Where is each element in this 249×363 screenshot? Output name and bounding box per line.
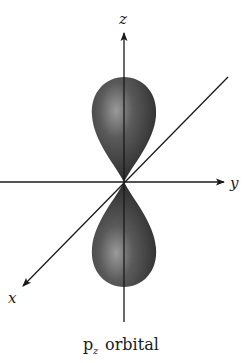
caption-p: p <box>83 335 93 354</box>
caption-subscript: z <box>92 345 99 356</box>
y-axis-label: y <box>229 174 239 192</box>
caption-text: orbital <box>100 335 159 354</box>
pz-orbital-diagram: z y x p z orbital <box>0 0 249 363</box>
z-axis-label: z <box>118 10 127 28</box>
figure-caption: p z orbital <box>83 335 159 356</box>
x-axis-label: x <box>8 289 17 307</box>
